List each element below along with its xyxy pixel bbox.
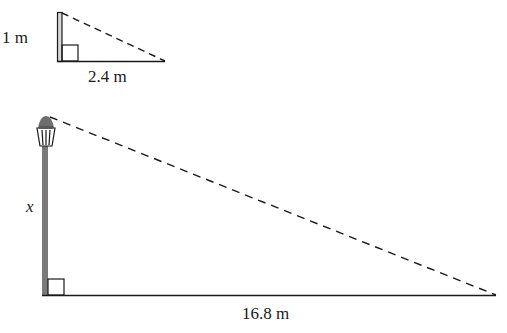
large-height-label: x bbox=[25, 197, 34, 216]
small-base-label: 2.4 m bbox=[88, 67, 127, 86]
small-post bbox=[58, 13, 63, 62]
large-shadow-ray bbox=[50, 117, 496, 295]
similar-triangles-diagram: 1 m 2.4 m x 16.8 m bbox=[0, 0, 507, 333]
large-base-label: 16.8 m bbox=[242, 304, 289, 323]
lamp-pole bbox=[42, 146, 48, 295]
lamp-icon bbox=[37, 116, 55, 146]
small-right-angle-marker bbox=[62, 45, 78, 61]
large-triangle: x 16.8 m bbox=[25, 116, 496, 323]
small-height-label: 1 m bbox=[2, 28, 28, 47]
large-right-angle-marker bbox=[48, 279, 64, 295]
small-triangle: 1 m 2.4 m bbox=[2, 13, 165, 87]
